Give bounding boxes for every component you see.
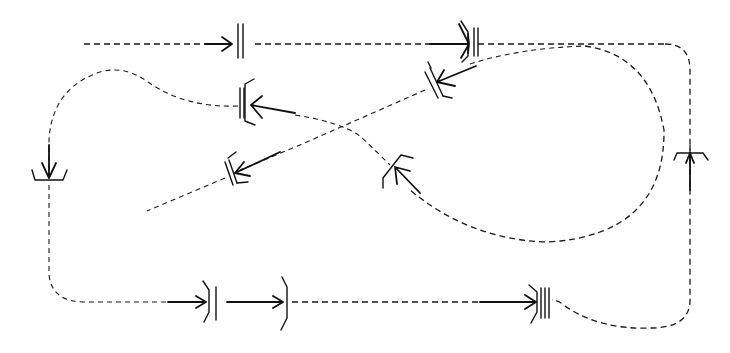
flow-diagram <box>0 0 730 353</box>
diagram-background <box>0 0 730 353</box>
